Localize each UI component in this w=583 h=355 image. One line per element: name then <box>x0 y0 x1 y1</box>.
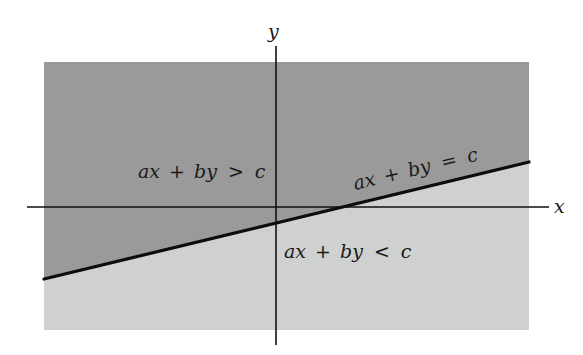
x-axis-label: x <box>554 195 565 217</box>
half-plane-diagram: x y ax+by>c ax+by=c ax+by<c <box>0 0 583 355</box>
y-axis-label: y <box>267 20 279 42</box>
